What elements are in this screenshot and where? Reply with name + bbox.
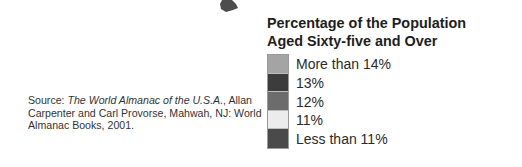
source-citation: Source: The World Almanac of the U.S.A.,… — [28, 94, 268, 132]
legend-swatch-11 — [268, 111, 288, 130]
legend-label-13: 13% — [296, 74, 391, 93]
source-prefix: Source: — [28, 94, 67, 106]
legend-labels: More than 14% 13% 12% 11% Less than 11% — [296, 55, 391, 149]
legend-swatch-12 — [268, 92, 288, 111]
legend-swatches — [267, 54, 289, 149]
legend-swatch-more-than-14 — [268, 55, 288, 74]
legend-label-more-than-14: More than 14% — [296, 55, 391, 74]
legend-title-line-1: Percentage of the Population — [267, 14, 466, 32]
legend-label-11: 11% — [296, 111, 391, 130]
map-region-fragment — [216, 0, 240, 14]
source-title: The World Almanac of the U.S.A. — [67, 94, 223, 106]
legend-label-12: 12% — [296, 93, 391, 112]
legend-swatch-less-than-11 — [268, 129, 288, 148]
map-shape-icon — [216, 0, 240, 14]
legend-label-less-than-11: Less than 11% — [296, 130, 391, 149]
legend-swatch-13 — [268, 74, 288, 93]
legend-title: Percentage of the Population Aged Sixty-… — [267, 14, 466, 50]
legend-title-line-2: Aged Sixty-five and Over — [267, 32, 466, 50]
